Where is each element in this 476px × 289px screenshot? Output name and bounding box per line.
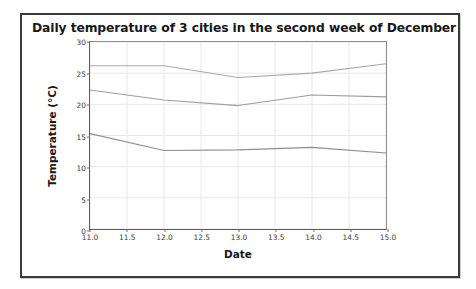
x-axis-label: Date	[89, 248, 387, 260]
series-line-city-2	[90, 90, 386, 106]
x-tick-label: 15.0	[380, 233, 396, 242]
series-lines	[90, 42, 386, 229]
y-tick-label: 15	[77, 132, 86, 141]
y-tick-mark	[87, 168, 90, 169]
y-tick-label: 25	[77, 69, 86, 78]
y-tick-label: 5	[81, 195, 86, 204]
series-line-city-1	[90, 64, 386, 78]
y-tick-mark	[87, 105, 90, 106]
y-tick-mark	[87, 136, 90, 137]
x-tick-label: 14.0	[305, 233, 321, 242]
screenshot-root: Daily temperature of 3 cities in the sec…	[0, 0, 476, 289]
x-tick-mark	[127, 229, 128, 232]
y-tick-mark	[87, 42, 90, 43]
x-tick-mark	[313, 229, 314, 232]
y-tick-mark	[87, 199, 90, 200]
y-tick-label: 30	[77, 38, 86, 47]
y-axis-label-text: Temperature (°C)	[46, 85, 58, 187]
x-tick-mark	[239, 229, 240, 232]
x-tick-label: 12.0	[156, 233, 172, 242]
x-tick-label: 11.5	[119, 233, 135, 242]
series-line-city-3	[90, 134, 386, 153]
y-tick-label: 10	[77, 164, 86, 173]
chart-title: Daily temperature of 3 cities in the sec…	[32, 21, 452, 35]
y-tick-label: 20	[77, 101, 86, 110]
x-tick-label: 12.5	[194, 233, 210, 242]
chart-figure-frame: Daily temperature of 3 cities in the sec…	[20, 13, 460, 278]
x-tick-label: 13.0	[231, 233, 247, 242]
plot-area: 05101520253011.011.512.012.513.013.514.0…	[89, 41, 387, 230]
x-tick-mark	[164, 229, 165, 232]
x-tick-label: 11.0	[82, 233, 98, 242]
y-axis-label: Temperature (°C)	[45, 41, 59, 230]
y-tick-mark	[87, 73, 90, 74]
x-tick-label: 14.5	[343, 233, 359, 242]
x-tick-mark	[90, 229, 91, 232]
x-tick-mark	[201, 229, 202, 232]
x-tick-mark	[350, 229, 351, 232]
x-tick-mark	[388, 229, 389, 232]
x-tick-label: 13.5	[268, 233, 284, 242]
x-tick-mark	[276, 229, 277, 232]
